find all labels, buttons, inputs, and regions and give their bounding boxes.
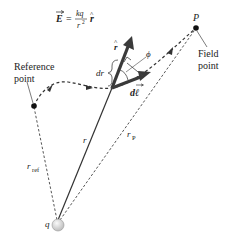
equation-equals: = bbox=[66, 13, 72, 24]
r-ref-label: r bbox=[27, 161, 31, 171]
r-p-line bbox=[60, 31, 194, 220]
q-label: q bbox=[45, 219, 50, 229]
phi-label: ϕ bbox=[146, 49, 151, 59]
equation-denominator: r bbox=[77, 21, 81, 30]
field-point-label-2: point bbox=[198, 60, 219, 71]
reference-point-label-1: Reference bbox=[14, 61, 55, 72]
dl-arrowhead bbox=[138, 71, 151, 81]
r-line bbox=[58, 88, 112, 220]
path-arrow-2 bbox=[86, 85, 93, 90]
reference-point-label-2: point bbox=[14, 73, 35, 84]
field-point-dot bbox=[193, 25, 199, 31]
reference-point-leader bbox=[27, 82, 33, 103]
r-p-subscript: P bbox=[132, 134, 136, 141]
charge-q bbox=[52, 219, 64, 231]
equation-E: E bbox=[55, 13, 63, 24]
r-ref-subscript: ref bbox=[32, 166, 40, 173]
field-point-label-1: Field bbox=[198, 48, 219, 59]
dr-label: dr bbox=[96, 68, 105, 78]
electric-potential-path-diagram: E = kq r 2 r ^ Reference point P Field p… bbox=[0, 0, 228, 243]
equation-exponent: 2 bbox=[82, 19, 85, 25]
r-label: r bbox=[83, 135, 87, 145]
field-point-leader bbox=[197, 31, 207, 47]
equation-numerator: kq bbox=[76, 9, 84, 18]
r-p-label: r bbox=[127, 129, 131, 139]
reference-point-dot bbox=[31, 103, 37, 109]
dl-label: dℓ bbox=[130, 87, 139, 98]
r-ref-line bbox=[34, 107, 57, 220]
p-label: P bbox=[192, 12, 199, 23]
field-equation: E = kq r 2 r ^ bbox=[55, 9, 94, 30]
